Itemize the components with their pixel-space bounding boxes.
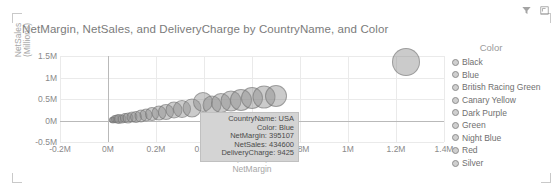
legend-items: BlackBlueBritish Racing GreenCanary Yell…	[452, 56, 552, 169]
legend-swatch-icon	[452, 147, 459, 154]
gridline-vertical	[444, 56, 445, 142]
legend-item[interactable]: Black	[452, 56, 552, 69]
x-axis-tick-label: 1M	[342, 144, 354, 154]
x-axis-tick-label: 1.2M	[387, 144, 406, 154]
x-axis-tick-label: 1.4M	[435, 144, 454, 154]
legend-item[interactable]: British Racing Green	[452, 81, 552, 94]
legend: Color BlackBlueBritish Racing GreenCanar…	[452, 42, 552, 169]
scatter-bubble[interactable]	[392, 48, 420, 76]
y-axis-title: NetSales(Millions)	[14, 8, 32, 72]
y-axis-tick-label: 1M	[45, 73, 57, 83]
legend-swatch-icon	[452, 134, 459, 141]
y-axis-tick-label: 1.5M	[38, 51, 57, 61]
page-title: NetMargin, NetSales, and DeliveryCharge …	[22, 23, 388, 35]
legend-item-label: Red	[462, 145, 478, 155]
legend-item-label: Green	[462, 120, 486, 130]
focus-mode-icon[interactable]	[539, 2, 550, 13]
legend-item[interactable]: Blue	[452, 69, 552, 82]
legend-item[interactable]: Canary Yellow	[452, 94, 552, 107]
data-point-tooltip: CountryName: USA Color: Blue NetMargin: …	[200, 112, 299, 162]
x-axis-tick-label: -0.2M	[49, 144, 71, 154]
frame-corner-bottom-right	[541, 173, 551, 183]
visual-header-icons	[521, 2, 550, 13]
gridline-horizontal	[60, 78, 444, 79]
legend-item-label: Night Blue	[462, 133, 501, 143]
y-axis-tick-label: 0.5M	[38, 94, 57, 104]
legend-swatch-icon	[452, 97, 459, 104]
legend-title: Color	[452, 42, 552, 53]
x-axis-tick-label: 0.2M	[147, 144, 166, 154]
tooltip-delivery-charge: DeliveryCharge: 9425	[205, 149, 294, 158]
gridline-horizontal	[60, 56, 444, 57]
legend-item[interactable]: Dark Purple	[452, 106, 552, 119]
legend-item[interactable]: Red	[452, 144, 552, 157]
legend-swatch-icon	[452, 109, 459, 116]
filter-icon[interactable]	[521, 2, 532, 13]
legend-swatch-icon	[452, 122, 459, 129]
legend-item-label: Dark Purple	[462, 108, 507, 118]
frame-corner-bottom-left	[12, 173, 22, 183]
legend-swatch-icon	[452, 71, 459, 78]
legend-swatch-icon	[452, 59, 459, 66]
x-axis-tick-label: 0M	[102, 144, 114, 154]
legend-swatch-icon	[452, 160, 459, 167]
legend-item-label: Black	[462, 57, 483, 67]
legend-item[interactable]: Silver	[452, 157, 552, 170]
legend-item-label: Canary Yellow	[462, 95, 516, 105]
legend-item-label: Silver	[462, 158, 483, 168]
legend-item[interactable]: Green	[452, 119, 552, 132]
scatter-bubble[interactable]	[265, 85, 287, 107]
y-axis-tick-label: 0M	[45, 116, 57, 126]
visual-container: NetMargin, NetSales, and DeliveryCharge …	[0, 0, 557, 194]
legend-item-label: Blue	[462, 70, 479, 80]
y-axis-line	[108, 56, 109, 142]
legend-item-label: British Racing Green	[462, 82, 540, 92]
legend-item[interactable]: Night Blue	[452, 132, 552, 145]
legend-swatch-icon	[452, 84, 459, 91]
